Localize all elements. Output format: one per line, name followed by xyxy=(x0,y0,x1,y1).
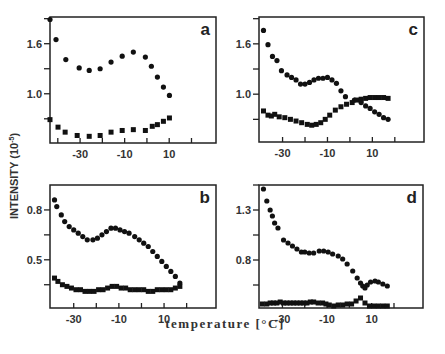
data-point xyxy=(113,226,118,231)
data-point xyxy=(53,37,58,42)
data-point xyxy=(143,54,148,59)
data-point xyxy=(108,59,113,64)
data-point xyxy=(155,74,160,79)
x-tick-label: -30 xyxy=(66,313,82,325)
series-squares xyxy=(260,296,390,309)
data-point xyxy=(87,68,92,73)
data-point xyxy=(307,250,312,255)
x-tick-label: 10 xyxy=(163,148,175,160)
data-point xyxy=(60,282,65,287)
data-point xyxy=(362,301,367,306)
data-point xyxy=(128,287,133,292)
data-point xyxy=(372,109,377,114)
data-point xyxy=(363,96,368,101)
data-point xyxy=(334,81,339,86)
data-point xyxy=(69,286,74,291)
data-point xyxy=(143,128,148,133)
data-point xyxy=(87,134,92,139)
x-axis-label: temperature [°C] xyxy=(165,316,285,332)
data-point xyxy=(311,300,316,305)
data-point xyxy=(114,284,119,289)
data-point xyxy=(168,269,173,274)
panel-label-b: b xyxy=(200,188,210,207)
data-point xyxy=(63,57,68,62)
data-point xyxy=(78,287,83,292)
data-point xyxy=(329,77,334,82)
data-point xyxy=(381,95,386,100)
data-point xyxy=(101,287,106,292)
data-point xyxy=(98,133,103,138)
data-point xyxy=(77,65,82,70)
data-point xyxy=(377,95,382,100)
data-point xyxy=(149,64,154,69)
data-point xyxy=(146,244,151,249)
panel-a: -30-10101.01.6a xyxy=(27,17,216,160)
series-circles xyxy=(261,186,390,290)
data-point xyxy=(327,303,332,308)
data-point xyxy=(131,49,136,54)
series-circles xyxy=(261,28,391,122)
data-point xyxy=(105,286,110,291)
data-point xyxy=(318,120,323,125)
data-point xyxy=(340,256,345,261)
y-tick-label: 0.8 xyxy=(236,254,251,266)
data-point xyxy=(270,213,275,218)
data-point xyxy=(367,304,372,309)
y-tick-label: 1.0 xyxy=(236,88,251,100)
data-point xyxy=(167,115,172,120)
data-point xyxy=(386,96,391,101)
data-point xyxy=(376,279,381,284)
data-point xyxy=(272,112,277,117)
data-point xyxy=(314,122,319,127)
data-point xyxy=(270,54,275,59)
data-point xyxy=(302,249,307,254)
data-point xyxy=(354,299,359,304)
data-point xyxy=(385,117,390,122)
data-point xyxy=(368,279,373,284)
data-point xyxy=(155,122,160,127)
data-point xyxy=(358,296,363,301)
data-point xyxy=(87,289,92,294)
data-point xyxy=(120,128,125,133)
panel-label-a: a xyxy=(201,20,211,39)
data-point xyxy=(326,249,331,254)
data-point xyxy=(261,108,266,113)
data-point xyxy=(368,95,373,100)
series-squares xyxy=(261,95,391,128)
data-point xyxy=(275,225,280,230)
data-point xyxy=(150,124,155,129)
data-point xyxy=(320,76,325,81)
data-point xyxy=(290,243,295,248)
data-point xyxy=(261,28,266,33)
data-point xyxy=(59,212,64,217)
data-point xyxy=(265,42,270,47)
data-point xyxy=(110,284,115,289)
data-point xyxy=(161,119,166,124)
x-tick-label: -10 xyxy=(111,313,127,325)
data-point xyxy=(98,66,103,71)
data-point xyxy=(309,123,314,128)
data-point xyxy=(345,261,350,266)
x-tick-label: -30 xyxy=(275,147,291,159)
y-tick-label: 1.0 xyxy=(27,88,42,100)
data-point xyxy=(363,103,368,108)
data-point xyxy=(173,274,178,279)
data-point xyxy=(372,95,377,100)
data-point xyxy=(272,220,277,225)
data-point xyxy=(80,234,85,239)
plot-frame xyxy=(50,17,216,143)
data-point xyxy=(132,234,137,239)
y-tick-label: 1.3 xyxy=(236,204,251,216)
y-axis-label-exponent: -5 xyxy=(8,137,15,143)
data-point xyxy=(137,237,142,242)
data-point xyxy=(368,106,373,111)
data-point xyxy=(333,108,338,113)
x-tick-label: -30 xyxy=(72,148,88,160)
data-point xyxy=(350,100,355,105)
x-tick-label: -10 xyxy=(320,147,336,159)
data-point xyxy=(285,240,290,245)
data-point xyxy=(294,119,299,124)
y-tick-label: 0.5 xyxy=(27,254,42,266)
data-point xyxy=(150,289,155,294)
x-tick-label: -10 xyxy=(117,148,133,160)
